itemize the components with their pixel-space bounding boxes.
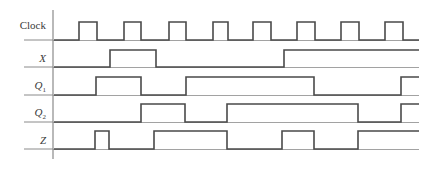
label-q2: Q2	[0, 106, 46, 121]
waveform-clock	[54, 22, 419, 40]
waveform-z	[54, 131, 419, 149]
waveform-x	[54, 50, 419, 67]
label-clock: Clock	[0, 19, 46, 31]
waveform-q2	[54, 104, 419, 122]
timing-diagram	[0, 0, 441, 169]
label-z: Z	[0, 134, 46, 146]
label-q1: Q1	[0, 79, 46, 94]
signal-rows	[24, 22, 419, 150]
waveform-q1	[54, 77, 419, 95]
label-x: X	[0, 52, 46, 64]
